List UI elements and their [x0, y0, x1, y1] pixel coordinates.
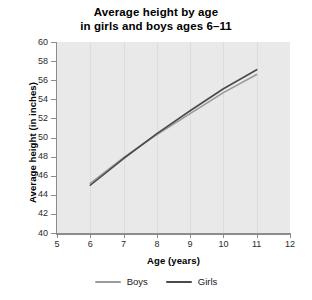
legend-item-boys: Boys — [95, 277, 148, 287]
plot-area — [57, 42, 290, 233]
x-axis-tick — [57, 234, 58, 238]
y-axis-tick — [51, 118, 56, 119]
chart-title: Average height by age in girls and boys … — [0, 6, 312, 33]
y-axis-tick — [51, 214, 56, 215]
series-line-boys — [90, 74, 256, 183]
y-axis-tick — [51, 176, 56, 177]
y-axis-tick — [51, 233, 56, 234]
series-line-girls — [90, 70, 256, 186]
x-axis-tick — [223, 234, 224, 238]
x-axis-tick-label: 6 — [80, 240, 100, 249]
y-axis-tick — [51, 195, 56, 196]
x-axis-tick-label: 12 — [280, 240, 300, 249]
x-axis-tick-label: 9 — [180, 240, 200, 249]
chart-title-line-2: in girls and boys ages 6–11 — [0, 20, 312, 34]
x-axis-tick-label: 11 — [247, 240, 267, 249]
chart-figure: Average height by age in girls and boys … — [0, 0, 312, 300]
x-axis-tick — [157, 234, 158, 238]
legend-label: Boys — [127, 277, 148, 287]
x-axis-tick-label: 5 — [47, 240, 67, 249]
legend-swatch-boys — [95, 281, 121, 283]
y-axis-tick — [51, 61, 56, 62]
legend-item-girls: Girls — [166, 277, 218, 287]
chart-title-line-1: Average height by age — [0, 6, 312, 20]
y-axis-tick — [51, 99, 56, 100]
y-axis-tick — [51, 42, 56, 43]
legend-swatch-girls — [166, 281, 192, 283]
x-axis-tick — [290, 234, 291, 238]
x-axis-tick-label: 10 — [213, 240, 233, 249]
y-axis-tick-label: 40 — [18, 229, 48, 238]
y-axis-title: Average height (in inches) — [27, 63, 38, 223]
x-axis-title: Age (years) — [57, 255, 290, 266]
x-axis-tick — [257, 234, 258, 238]
y-axis-tick — [51, 80, 56, 81]
x-axis-tick — [124, 234, 125, 238]
y-axis-tick-label: 60 — [18, 38, 48, 47]
series-lines — [57, 42, 290, 233]
y-axis-line — [56, 42, 57, 234]
y-axis-tick — [51, 157, 56, 158]
x-axis-tick — [190, 234, 191, 238]
x-axis-tick-label: 7 — [114, 240, 134, 249]
chart-legend: BoysGirls — [0, 277, 312, 287]
x-axis-tick-label: 8 — [147, 240, 167, 249]
legend-label: Girls — [198, 277, 218, 287]
x-axis-tick — [90, 234, 91, 238]
y-axis-tick — [51, 138, 56, 139]
